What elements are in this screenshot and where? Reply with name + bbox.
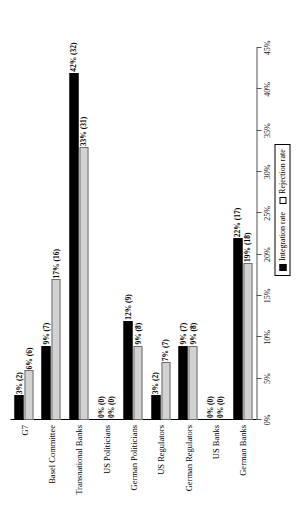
axis-tick-label: 20% (262, 247, 271, 262)
chart-category-row: Basel Committee9% (7)17% (16) (37, 48, 64, 420)
axis-tick (256, 171, 261, 172)
axis-tick-label: 25% (262, 206, 271, 221)
bar-integration-rate: 3% (2) (151, 395, 160, 420)
chart-stage: 0%5%10%15%20%25%30%35%40%45% G73% (2)6% … (0, 0, 301, 512)
chart-category-row: US Banks0% (0)0% (0) (201, 48, 228, 420)
category-label: German Politicians (128, 425, 138, 490)
bar-value-label: 0% (0) (97, 396, 105, 418)
axis-tick (256, 254, 261, 255)
chart-canvas: 0%5%10%15%20%25%30%35%40%45% G73% (2)6% … (0, 0, 301, 512)
bar-value-label: 42% (32) (69, 42, 77, 71)
bar-value-label: 22% (17) (233, 208, 241, 237)
chart-legend: Integration rate Rejection rate (274, 144, 290, 276)
bar-integration-rate: 9% (7) (178, 346, 187, 420)
bar-value-label: 17% (16) (52, 249, 60, 278)
axis-tick-label: 45% (262, 41, 271, 56)
bar-rejection-rate: 9% (8) (133, 346, 142, 420)
legend-label-integration-rate: Integration rate (277, 212, 287, 261)
chart-category-row: G73% (2)6% (6) (10, 48, 37, 420)
axis-tick (256, 130, 261, 131)
category-label: Transnational Banks (73, 425, 83, 495)
bar-rejection-rate: 17% (16) (51, 279, 60, 420)
axis-tick (256, 419, 261, 420)
chart-category-row: German Regulators9% (7)9% (8) (174, 48, 201, 420)
chart-category-row: US Regulators3% (2)7% (7) (147, 48, 174, 420)
category-label: US Regulators (155, 425, 165, 475)
bar-integration-rate: 9% (7) (41, 346, 50, 420)
bar-rejection-rate: 33% (31) (79, 147, 88, 420)
bar-rejection-rate: 6% (6) (24, 370, 33, 420)
category-label: G7 (19, 425, 29, 435)
bar-value-label: 0% (0) (107, 396, 115, 418)
chart-category-row: US Politicians0% (0)0% (0) (92, 48, 119, 420)
bar-integration-rate: 3% (2) (14, 395, 23, 420)
bar-value-label: 12% (9) (124, 294, 132, 320)
bar-integration-rate: 22% (17) (233, 238, 242, 420)
legend-label-rejection-rate: Rejection rate (277, 149, 287, 194)
bar-rejection-rate: 7% (7) (161, 362, 170, 420)
plot-area: G73% (2)6% (6)Basel Committee9% (7)17% (… (10, 48, 256, 420)
axis-tick (256, 88, 261, 89)
legend-swatch-integration-rate (279, 264, 286, 271)
axis-tick (256, 212, 261, 213)
bar-value-label: 9% (8) (189, 323, 197, 345)
bar-value-label: 6% (6) (25, 348, 33, 370)
bar-value-label: 3% (2) (15, 372, 23, 394)
axis-tick (256, 378, 261, 379)
axis-tick-label: 0% (262, 415, 271, 426)
chart-category-row: German Banks22% (17)19% (18) (229, 48, 256, 420)
bar-value-label: 9% (7) (179, 323, 187, 345)
legend-item-rejection-rate: Rejection rate (277, 149, 287, 204)
bar-value-label: 3% (2) (151, 372, 159, 394)
category-label: Basel Committee (46, 425, 56, 484)
bar-value-label: 0% (0) (216, 396, 224, 418)
bar-value-label: 7% (7) (161, 339, 169, 361)
axis-tick-label: 5% (262, 373, 271, 384)
bar-value-label: 19% (18) (243, 233, 251, 262)
bar-value-label: 9% (7) (42, 323, 50, 345)
bar-integration-rate: 12% (9) (123, 321, 132, 420)
bar-value-label: 9% (8) (134, 323, 142, 345)
chart-category-row: Transnational Banks42% (32)33% (31) (65, 48, 92, 420)
axis-tick-label: 10% (262, 330, 271, 345)
axis-tick-label: 35% (262, 123, 271, 138)
axis-tick-label: 15% (262, 289, 271, 304)
chart-category-row: German Politicians12% (9)9% (8) (119, 48, 146, 420)
axis-tick-label: 30% (262, 165, 271, 180)
bar-value-label: 33% (31) (79, 117, 87, 146)
category-label: German Regulators (183, 425, 193, 491)
category-label: US Banks (210, 425, 220, 459)
axis-tick (256, 295, 261, 296)
bar-integration-rate: 42% (32) (69, 73, 78, 420)
category-label: US Politicians (101, 425, 111, 474)
bar-value-label: 0% (0) (206, 396, 214, 418)
legend-swatch-rejection-rate (279, 197, 286, 204)
bar-rejection-rate: 19% (18) (243, 263, 252, 420)
axis-tick-label: 40% (262, 82, 271, 97)
axis-tick (256, 336, 261, 337)
bar-rejection-rate: 9% (8) (188, 346, 197, 420)
axis-tick (256, 47, 261, 48)
legend-item-integration-rate: Integration rate (277, 212, 287, 271)
category-label: German Banks (237, 425, 247, 476)
